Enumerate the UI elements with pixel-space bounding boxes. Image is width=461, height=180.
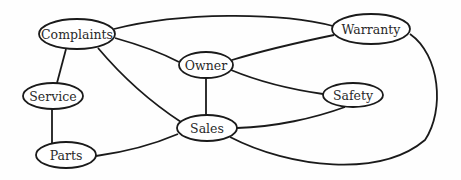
node-label: Sales [190, 121, 224, 136]
edge-sales-parts [96, 134, 178, 156]
node-owner: Owner [179, 52, 233, 78]
node-label: Service [29, 89, 76, 104]
node-parts: Parts [36, 142, 96, 168]
node-label: Safety [333, 88, 374, 103]
graph-diagram: ComplaintsOwnerWarrantySafetyServicePart… [0, 0, 461, 180]
node-label: Owner [185, 58, 227, 73]
edge-complaints-service [57, 49, 66, 83]
node-complaints: Complaints [39, 19, 115, 49]
edge-owner-warranty [232, 35, 334, 60]
node-service: Service [23, 83, 83, 109]
node-label: Complaints [41, 27, 113, 42]
edge-complaints-warranty [114, 16, 333, 29]
node-safety: Safety [323, 83, 383, 107]
node-warranty: Warranty [332, 14, 410, 44]
node-label: Parts [50, 148, 83, 163]
node-label: Warranty [342, 22, 402, 37]
node-sales: Sales [177, 115, 237, 141]
edge-sales-safety [237, 107, 345, 128]
edge-owner-safety [231, 70, 323, 94]
edge-complaints-owner [115, 38, 179, 62]
edge-complaints-sales [98, 48, 181, 122]
nodes-layer: ComplaintsOwnerWarrantySafetyServicePart… [23, 14, 410, 168]
graph-svg: ComplaintsOwnerWarrantySafetyServicePart… [0, 0, 461, 180]
